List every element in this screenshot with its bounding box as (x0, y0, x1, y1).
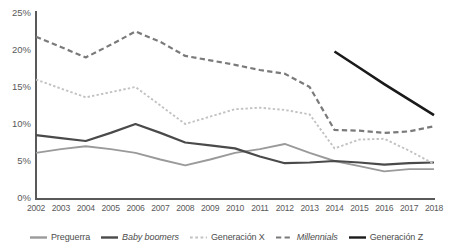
x-tick-label: 2002 (27, 203, 45, 213)
x-tick-label: 2007 (151, 203, 169, 213)
x-tick-label: 2016 (375, 203, 393, 213)
legend-label: Millennials (297, 232, 338, 242)
x-tick-label: 2015 (350, 203, 368, 213)
series-line (335, 51, 435, 115)
x-tick-label: 2017 (400, 203, 418, 213)
plot-area (36, 13, 434, 198)
x-tick-label: 2011 (251, 203, 268, 213)
y-tick-label: 20% (0, 45, 31, 55)
y-tick-label: 10% (0, 119, 31, 129)
legend-label: Baby boomers (122, 232, 179, 242)
legend-swatch-icon (30, 233, 47, 242)
x-tick-label: 2004 (77, 203, 95, 213)
x-tick-label: 2012 (276, 203, 294, 213)
chart-legend: PreguerraBaby boomersGeneración XMillenn… (0, 232, 453, 242)
x-tick-label: 2018 (425, 203, 443, 213)
legend-item[interactable]: Millennials (276, 232, 338, 242)
x-tick-label: 2003 (52, 203, 70, 213)
legend-item[interactable]: Preguerra (30, 232, 90, 242)
x-tick-label: 2010 (226, 203, 244, 213)
series-line (36, 80, 434, 164)
y-tick-label: 25% (0, 8, 31, 18)
x-tick-label: 2006 (126, 203, 144, 213)
x-tick-label: 2014 (325, 203, 343, 213)
x-tick-label: 2009 (201, 203, 219, 213)
legend-item[interactable]: Baby boomers (101, 232, 179, 242)
legend-item[interactable]: Generación X (190, 232, 265, 242)
x-tick-label: 2008 (176, 203, 194, 213)
legend-swatch-icon (190, 233, 207, 242)
legend-label: Generación Z (370, 232, 423, 242)
legend-label: Generación X (211, 232, 265, 242)
x-tick-label: 2005 (102, 203, 120, 213)
x-tick-label: 2013 (301, 203, 319, 213)
legend-label: Preguerra (51, 232, 90, 242)
series-line (36, 32, 434, 133)
y-tick-label: 5% (0, 156, 31, 166)
y-tick-label: 0% (0, 193, 31, 203)
legend-swatch-icon (349, 233, 366, 242)
x-axis-line (35, 198, 435, 200)
y-tick-label: 15% (0, 82, 31, 92)
legend-item[interactable]: Generación Z (349, 232, 423, 242)
legend-swatch-icon (101, 233, 118, 242)
x-axis-ticks: 2002200320042005200620072008200920102011… (0, 203, 453, 219)
series-lines (36, 13, 434, 198)
line-chart: 25%20%15%10%5%0% 20022003200420052006200… (0, 0, 453, 252)
series-line (36, 124, 434, 165)
legend-swatch-icon (276, 233, 293, 242)
